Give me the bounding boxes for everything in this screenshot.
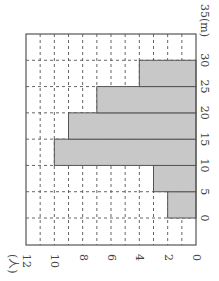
histogram-bar — [54, 139, 196, 165]
count-tick-label: 4 — [133, 254, 146, 261]
count-tick-label: 8 — [77, 254, 90, 261]
histogram-bar — [97, 87, 196, 113]
class-tick-label: 25 — [198, 80, 211, 94]
class-tick-label: 10 — [198, 158, 211, 172]
count-unit-label: (人) — [6, 254, 19, 274]
histogram-bar — [139, 60, 196, 86]
count-axis-ticks: 024681012 — [20, 254, 203, 268]
class-tick-label: 5 — [198, 188, 211, 195]
histogram-bar — [69, 113, 197, 139]
histogram-bar — [154, 165, 197, 191]
class-axis-ticks: 051015202530 — [198, 53, 211, 221]
count-tick-label: 0 — [190, 254, 203, 261]
histogram-chart: 051015202530 024681012 35(m) (人) — [0, 0, 219, 281]
count-tick-label: 2 — [162, 254, 175, 261]
class-tick-label: 20 — [198, 106, 211, 120]
class-tick-label: 0 — [198, 215, 211, 222]
class-tick-label: 30 — [198, 53, 211, 67]
count-tick-label: 6 — [105, 254, 118, 261]
class-tick-label: 15 — [198, 132, 211, 146]
class-unit-label: 35(m) — [198, 4, 211, 37]
count-tick-label: 12 — [20, 254, 33, 268]
histogram-bar — [168, 192, 196, 218]
count-tick-label: 10 — [48, 254, 61, 268]
